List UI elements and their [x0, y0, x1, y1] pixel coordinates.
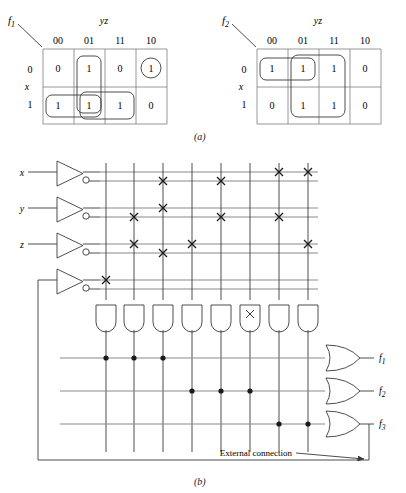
- pla-and-crosspoints: [102, 168, 312, 284]
- and-gate-6: [240, 305, 260, 332]
- caption-a: (a): [194, 131, 206, 142]
- pla-external-connection-label: External connection: [220, 448, 293, 458]
- kmap-f1-cell-r1c3: 0: [149, 100, 154, 111]
- figure-pla-design: f1 yz x 00 01 11 10 0 1 0 1 0 1 1: [0, 0, 406, 493]
- and-gate-1: [96, 305, 116, 332]
- pla-output-label-f1: f1: [379, 352, 386, 366]
- kmap-f1-col-header-1: 01: [84, 35, 94, 46]
- and-gate-8: [298, 305, 318, 332]
- or-dot-f2-c3: [189, 388, 194, 393]
- kmap-f2-group-row0-col00-col01: [260, 58, 315, 80]
- kmap-f1-cell-r1c1: 1: [87, 100, 92, 111]
- kmap-f1-cell-r1c0: 1: [56, 100, 61, 111]
- kmap-f2-row-var-label: x: [238, 81, 244, 92]
- kmap-f2-cell-r0c2: 1: [332, 63, 337, 74]
- kmap-f2-leader-line: [232, 24, 256, 47]
- pla-input-label-x: x: [19, 167, 25, 178]
- kmap-f2-group-col01-col11-both-rows: [291, 55, 345, 117]
- kmap-f2-function-label: f2: [222, 14, 229, 29]
- kmap-f1-row-header-1: 1: [28, 99, 33, 110]
- kmap-f1-cell-r1c2: 1: [118, 100, 123, 111]
- kmap-f2-cell-r0c3: 0: [363, 63, 368, 74]
- pla-and-gates: [96, 305, 318, 332]
- pla-external-connection-arrow: [296, 453, 364, 459]
- kmap-f2-col-header-0: 00: [267, 35, 277, 46]
- kmap-f1: f1 yz x 00 01 11 10 0 1 0 1 0 1 1: [8, 14, 167, 124]
- or-gate-f2: [326, 378, 374, 404]
- kmap-f2-cell-r1c3: 0: [363, 100, 368, 111]
- kmap-f1-cell-r0c2: 0: [118, 63, 123, 74]
- pla-driver-z: [57, 233, 100, 258]
- pla-input-drivers: [57, 161, 100, 294]
- pla-or-gates: [326, 345, 374, 437]
- kmap-f2-cell-r0c0: 1: [270, 63, 275, 74]
- pla-input-label-z: z: [19, 239, 24, 250]
- kmap-f1-row-var-label: x: [24, 81, 30, 92]
- and-gate-2: [124, 305, 144, 332]
- kmap-f1-group-row1-col00-col01: [46, 95, 101, 117]
- and-gate-5: [211, 305, 231, 332]
- kmap-f2-grid: [257, 49, 381, 124]
- or-dot-f3-c7: [305, 421, 310, 426]
- kmap-f2-cell-r1c2: 1: [332, 100, 337, 111]
- or-dot-f1-c1: [131, 355, 136, 360]
- kmap-f1-row-header-0: 0: [28, 64, 33, 75]
- pla-output-label-f3: f3: [379, 418, 386, 432]
- kmap-f1-leader-line: [18, 24, 42, 47]
- kmap-f1-grid: [43, 49, 167, 124]
- caption-b: (b): [194, 476, 206, 487]
- kmap-f1-function-label: f1: [8, 14, 15, 29]
- kmap-f1-col-header-2: 11: [115, 35, 125, 46]
- kmap-f2-col-header-2: 11: [329, 35, 339, 46]
- pla-and-plane-rows: [100, 172, 318, 289]
- or-dot-f2-c4: [218, 388, 223, 393]
- kmap-f2-cell-r1c1: 1: [301, 100, 306, 111]
- kmap-f2-col-var-label: yz: [313, 15, 322, 26]
- kmap-f1-col-header-0: 00: [53, 35, 63, 46]
- kmap-f1-cell-r0c1: 1: [87, 63, 92, 74]
- or-dot-f3-c6: [276, 421, 281, 426]
- pla-driver-y: [57, 197, 100, 222]
- kmap-f2: f2 yz x 00 01 11 10 0 1 1 1 1 0 0 1 1 0: [222, 14, 381, 124]
- kmap-f1-cell-r0c0: 0: [56, 63, 61, 74]
- pla-driver-x: [57, 161, 100, 186]
- kmap-f2-col-header-3: 10: [360, 35, 370, 46]
- pla-diagram: x y z: [19, 161, 386, 460]
- pla-input-label-y: y: [19, 203, 25, 214]
- kmap-f2-row-header-0: 0: [242, 64, 247, 75]
- pla-output-label-f2: f2: [379, 385, 386, 399]
- kmap-f2-row-header-1: 1: [242, 99, 247, 110]
- or-gate-f1: [326, 345, 374, 371]
- kmap-f2-col-header-1: 01: [298, 35, 308, 46]
- or-dot-f2-c5: [247, 388, 252, 393]
- pla-input-leads: [28, 172, 57, 280]
- or-dot-f1-c2: [160, 355, 165, 360]
- kmap-f2-cell-r1c0: 0: [270, 100, 275, 111]
- kmap-f1-cell-r0c3: 1: [149, 63, 154, 74]
- and-gate-6-mark-x: [246, 310, 254, 318]
- kmap-f1-col-header-3: 10: [146, 35, 156, 46]
- and-gate-3: [153, 305, 173, 332]
- figure-canvas: f1 yz x 00 01 11 10 0 1 0 1 0 1 1: [0, 0, 406, 493]
- and-gate-4: [182, 305, 202, 332]
- kmap-f2-cell-r0c1: 1: [301, 63, 306, 74]
- or-dot-f1-c0: [103, 355, 108, 360]
- pla-driver-feedback: [57, 269, 100, 294]
- or-gate-f3: [326, 411, 374, 437]
- kmap-f1-col-var-label: yz: [99, 15, 108, 26]
- and-gate-7: [269, 305, 289, 332]
- pla-external-feedback-path: [38, 280, 369, 460]
